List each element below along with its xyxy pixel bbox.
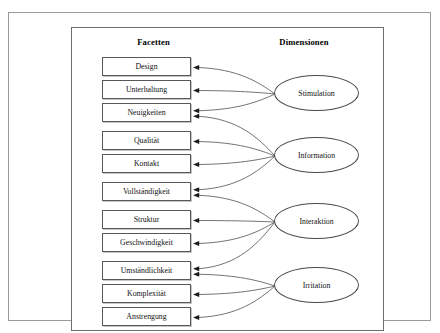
figure-outer-frame: Facetten Dimensionen Design Unterhaltung… bbox=[8, 12, 431, 321]
facet-box-unterhaltung[interactable]: Unterhaltung bbox=[102, 80, 191, 99]
dimension-ellipse-interaktion[interactable]: Interaktion bbox=[274, 203, 359, 239]
facet-box-struktur[interactable]: Struktur bbox=[102, 210, 191, 229]
column-heading-dimensionen: Dimensionen bbox=[249, 37, 359, 47]
dimension-ellipse-stimulation[interactable]: Stimulation bbox=[274, 75, 359, 111]
facet-box-qualitaet[interactable]: Qualität bbox=[102, 131, 191, 150]
facet-box-umstaendlichkeit[interactable]: Umständlichkeit bbox=[102, 261, 191, 280]
facet-box-design[interactable]: Design bbox=[102, 57, 191, 76]
facet-box-neuigkeiten[interactable]: Neuigkeiten bbox=[102, 103, 191, 122]
facet-box-vollstaendigkeit[interactable]: Vollständigkeit bbox=[102, 182, 191, 201]
dimension-ellipse-information[interactable]: Information bbox=[274, 137, 359, 173]
column-heading-facetten: Facetten bbox=[101, 37, 206, 47]
facet-box-komplexitaet[interactable]: Komplexität bbox=[102, 284, 191, 303]
dimension-ellipse-irritation[interactable]: Irritation bbox=[274, 267, 359, 303]
facet-box-geschwindigkeit[interactable]: Geschwindigkeit bbox=[102, 233, 191, 252]
facet-box-anstrengung[interactable]: Anstrengung bbox=[102, 307, 191, 326]
facet-box-kontakt[interactable]: Kontakt bbox=[102, 154, 191, 173]
